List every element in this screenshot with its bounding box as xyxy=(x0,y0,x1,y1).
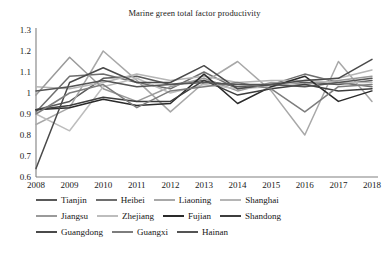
x-tick-label: 2018 xyxy=(363,180,382,190)
legend-label: Zhejiang xyxy=(122,210,154,222)
x-tick-label: 2015 xyxy=(262,180,281,190)
legend-row: JiangsuZhejiangFujianShandong xyxy=(36,208,381,224)
legend-swatch-icon xyxy=(220,199,241,201)
x-tick-label: 2013 xyxy=(195,180,214,190)
legend-swatch-icon xyxy=(220,215,241,217)
legend-item-guangdong[interactable]: Guangdong xyxy=(36,226,103,238)
axis-lines xyxy=(36,28,378,177)
chart-figure: Marine green total factor productivity 0… xyxy=(0,0,389,254)
legend-swatch-icon xyxy=(36,231,57,233)
legend-label: Guangdong xyxy=(61,226,103,238)
x-tick-label: 2011 xyxy=(128,180,146,190)
legend-item-hainan[interactable]: Hainan xyxy=(177,226,228,238)
series-line-liaoning xyxy=(36,51,372,135)
y-tick-label: 1.2 xyxy=(20,46,31,56)
legend-label: Tianjin xyxy=(61,194,87,206)
legend-label: Liaoning xyxy=(179,194,212,206)
legend-item-jiangsu[interactable]: Jiangsu xyxy=(36,210,88,222)
legend-swatch-icon xyxy=(36,215,57,217)
x-tick-label: 2010 xyxy=(94,180,113,190)
y-tick-label: 0.8 xyxy=(20,130,32,140)
legend-swatch-icon xyxy=(154,199,175,201)
legend-item-liaoning[interactable]: Liaoning xyxy=(154,194,212,206)
x-tick-label: 2016 xyxy=(296,180,315,190)
plot-area: 0.60.70.80.911.11.21.3 20082009201020112… xyxy=(0,20,389,190)
legend-swatch-icon xyxy=(96,199,117,201)
legend-label: Fujian xyxy=(188,210,211,222)
y-tick-label: 1 xyxy=(27,88,32,98)
legend-swatch-icon xyxy=(112,231,133,233)
x-tick-label: 2009 xyxy=(61,180,80,190)
y-axis-tick-labels: 0.60.70.80.911.11.21.3 xyxy=(20,25,32,182)
y-tick-label: 1.1 xyxy=(20,67,31,77)
x-tick-label: 2008 xyxy=(27,180,46,190)
legend-item-zhejiang[interactable]: Zhejiang xyxy=(97,210,154,222)
legend-label: Shandong xyxy=(245,210,281,222)
legend-label: Hainan xyxy=(202,226,228,238)
legend-item-heibei[interactable]: Heibei xyxy=(96,194,145,206)
legend-label: Guangxi xyxy=(137,226,168,238)
legend-label: Heibei xyxy=(121,194,145,206)
y-tick-label: 0.9 xyxy=(20,109,32,119)
legend-swatch-icon xyxy=(163,215,184,217)
legend-swatch-icon xyxy=(36,199,57,201)
y-tick-label: 1.3 xyxy=(20,25,32,35)
series-lines xyxy=(36,51,372,169)
legend-label: Shanghai xyxy=(245,194,279,206)
y-tick-label: 0.7 xyxy=(20,151,32,161)
legend-item-shanghai[interactable]: Shanghai xyxy=(220,194,279,206)
x-axis-tick-labels: 2008200920102011201220132014201520162017… xyxy=(27,180,382,190)
legend-label: Jiangsu xyxy=(61,210,88,222)
legend-swatch-icon xyxy=(177,231,198,233)
legend-row: GuangdongGuangxiHainan xyxy=(36,224,381,240)
x-tick-label: 2012 xyxy=(161,180,179,190)
line-chart-svg: 0.60.70.80.911.11.21.3 20082009201020112… xyxy=(0,20,389,190)
legend-item-guangxi[interactable]: Guangxi xyxy=(112,226,168,238)
legend-item-fujian[interactable]: Fujian xyxy=(163,210,211,222)
chart-legend: TianjinHeibeiLiaoningShanghaiJiangsuZhej… xyxy=(0,192,389,250)
legend-item-tianjin[interactable]: Tianjin xyxy=(36,194,87,206)
legend-swatch-icon xyxy=(97,215,118,217)
legend-row: TianjinHeibeiLiaoningShanghai xyxy=(36,192,381,208)
legend-item-shandong[interactable]: Shandong xyxy=(220,210,281,222)
x-tick-label: 2014 xyxy=(229,180,248,190)
chart-title: Marine green total factor productivity xyxy=(0,8,389,19)
x-tick-label: 2017 xyxy=(329,180,348,190)
